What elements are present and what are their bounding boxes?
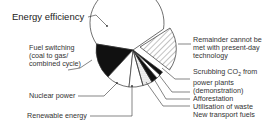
label-renewable: Renewable energy (27, 112, 87, 120)
label-transport: New transport fuels (193, 111, 255, 119)
label-fuel-switching: Fuel switching (coal to gas/ combined cy… (29, 44, 81, 69)
pie-slices (90, 0, 176, 87)
label-remainder: Remainder cannot be met with present-day… (193, 36, 262, 61)
label-energy-efficiency: Energy efficiency (12, 11, 84, 22)
label-nuclear: Nuclear power (29, 92, 75, 100)
label-scrubbing: Scrubbing CO2 from power plants (demonst… (193, 68, 257, 95)
